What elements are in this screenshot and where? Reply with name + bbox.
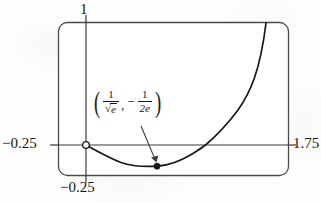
minimum-point-annotation: ( 1 √ e , − 1 2e ) bbox=[92, 89, 163, 115]
axis-label-right: 1.75 bbox=[293, 136, 319, 151]
annotation-y-numerator: 1 bbox=[140, 89, 150, 101]
annotation-radicand: e bbox=[110, 103, 117, 115]
annotation-x-denominator: √ e bbox=[103, 103, 119, 115]
annotation-y-denominator: 2e bbox=[138, 103, 152, 115]
annotation-close-paren: ) bbox=[155, 90, 161, 113]
annotation-x-numerator: 1 bbox=[106, 89, 116, 101]
annotation-minus-sign: − bbox=[127, 94, 134, 110]
axis-label-bottom: −0.25 bbox=[60, 180, 95, 195]
annotation-y-fraction: 1 2e bbox=[138, 89, 152, 114]
annotation-open-paren: ( bbox=[94, 90, 100, 113]
open-circle-marker bbox=[83, 142, 90, 149]
figure-container: 1 −0.25 −0.25 1.75 ( 1 √ e , − 1 2e ) bbox=[0, 0, 321, 203]
annotation-x-fraction: 1 √ e bbox=[103, 89, 119, 115]
minimum-point-marker bbox=[154, 163, 160, 169]
annotation-comma: , bbox=[121, 97, 124, 115]
annotation-sqrt-group: √ e bbox=[105, 103, 117, 115]
axis-label-top: 1 bbox=[80, 2, 88, 17]
axis-label-left: −0.25 bbox=[2, 136, 37, 151]
